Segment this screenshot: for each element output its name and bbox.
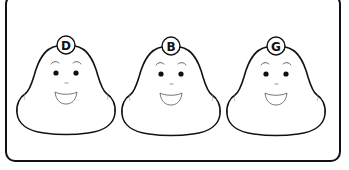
character-g <box>227 45 325 136</box>
character-d <box>17 44 115 135</box>
badge-d-label: D <box>61 39 71 53</box>
badge-g-label: G <box>271 40 281 54</box>
badge-d: D <box>57 36 75 54</box>
face-icon <box>17 44 115 135</box>
character-b <box>122 45 220 136</box>
badge-g: G <box>267 37 285 55</box>
face-icon <box>122 45 220 136</box>
face-icon <box>227 45 325 136</box>
badge-b-label: B <box>166 40 175 54</box>
badge-b: B <box>162 37 180 55</box>
characters-scene: D B G <box>0 0 349 170</box>
